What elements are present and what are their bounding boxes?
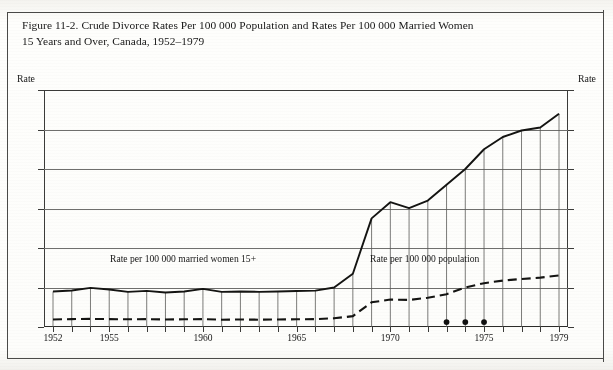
y-tick-right-800: [568, 169, 574, 170]
y-tick-left-0: [38, 327, 44, 328]
y-tick-right-0: [568, 327, 574, 328]
x-axis-label-1975: 1975: [475, 333, 494, 343]
x-tick-1970: [390, 327, 391, 332]
x-tick-1965: [297, 327, 298, 332]
x-axis-label-1960: 1960: [193, 333, 212, 343]
marker-dot-1973: [444, 319, 450, 325]
x-tick-1979: [559, 327, 560, 332]
x-tick-1954: [90, 327, 91, 332]
figure-title-line-1: Figure 11-2. Crude Divorce Rates Per 100…: [22, 18, 592, 34]
x-tick-1971: [409, 327, 410, 332]
y-tick-right-1200: [568, 90, 574, 91]
x-axis-label-1955: 1955: [100, 333, 119, 343]
x-tick-1974: [465, 327, 466, 332]
x-tick-1962: [240, 327, 241, 332]
x-tick-1953: [72, 327, 73, 332]
x-tick-1976: [503, 327, 504, 332]
x-tick-1958: [165, 327, 166, 332]
drop-lines: [53, 114, 559, 327]
plot-area: 020040060080010001200 020040060080010001…: [44, 90, 568, 327]
series-married-women-line: [53, 114, 559, 293]
x-tick-1973: [447, 327, 448, 332]
x-tick-1967: [334, 327, 335, 332]
page-border-right: [603, 10, 604, 362]
x-tick-1969: [372, 327, 373, 332]
y-tick-right-600: [568, 209, 574, 210]
x-tick-1955: [109, 327, 110, 332]
figure-title-line-2: 15 Years and Over, Canada, 1952–1979: [22, 34, 592, 50]
x-tick-1972: [428, 327, 429, 332]
x-tick-1966: [315, 327, 316, 332]
y-axis-title-left: Rate: [17, 73, 35, 84]
x-tick-1975: [484, 327, 485, 332]
x-tick-1964: [278, 327, 279, 332]
y-tick-right-200: [568, 288, 574, 289]
x-tick-1968: [353, 327, 354, 332]
x-tick-1961: [222, 327, 223, 332]
y-axis-title-right: Rate: [578, 73, 596, 84]
x-tick-1977: [522, 327, 523, 332]
series-population-line: [53, 275, 559, 319]
x-tick-1952: [53, 327, 54, 332]
x-tick-1959: [184, 327, 185, 332]
scanned-page: Figure 11-2. Crude Divorce Rates Per 100…: [0, 0, 613, 370]
y-tick-right-400: [568, 248, 574, 249]
x-axis-label-1952: 1952: [44, 333, 63, 343]
x-tick-1957: [147, 327, 148, 332]
x-axis-label-1970: 1970: [381, 333, 400, 343]
marker-dot-1974: [462, 319, 468, 325]
annotation-married-women: Rate per 100 000 married women 15+: [110, 253, 256, 264]
data-series-layer: [44, 90, 568, 327]
x-tick-1960: [203, 327, 204, 332]
x-tick-1978: [540, 327, 541, 332]
x-axis-label-1965: 1965: [287, 333, 306, 343]
annotation-population: Rate per 100 000 population: [370, 253, 479, 264]
x-tick-1956: [128, 327, 129, 332]
marker-dot-1975: [481, 319, 487, 325]
x-tick-1963: [259, 327, 260, 332]
y-tick-right-1000: [568, 130, 574, 131]
x-axis-label-1979: 1979: [550, 333, 569, 343]
figure-title: Figure 11-2. Crude Divorce Rates Per 100…: [22, 18, 592, 49]
